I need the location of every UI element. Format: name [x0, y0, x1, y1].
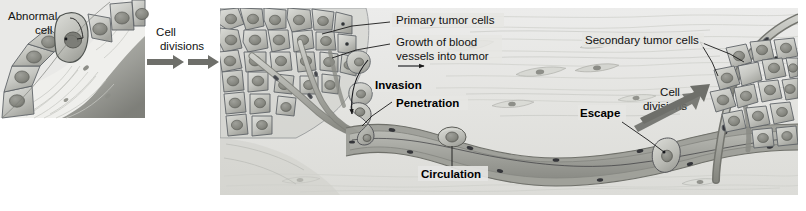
circulating-tumor-cell — [438, 127, 466, 147]
figure-canvas: Abnormal cell Cell divisions — [0, 0, 806, 211]
abnormal-cell-leader-dot — [65, 38, 68, 41]
escape-label: Escape — [580, 107, 620, 119]
metastasis-figure: Abnormal cell Cell divisions — [0, 0, 806, 211]
abnormal-cell-label-line1: Abnormal — [8, 10, 57, 22]
cell-divisions-left-label-line2: divisions — [160, 40, 204, 52]
invasion-label: Invasion — [375, 79, 422, 91]
circulation-label: Circulation — [421, 168, 481, 180]
abnormal-cell-label-line2: cell — [35, 24, 52, 36]
cell-divisions-left-label-line1: Cell — [156, 26, 176, 38]
cell-divisions-right-label-line1: Cell — [660, 86, 680, 98]
primary-tumor-cells-label: Primary tumor cells — [396, 14, 495, 26]
secondary-tumor-cells-label: Secondary tumor cells — [585, 34, 699, 46]
penetration-label: Penetration — [396, 97, 459, 109]
growth-blood-vessels-label-line1: Growth of blood — [396, 36, 477, 48]
growth-blood-vessels-label-line2: vessels into tumor — [396, 50, 489, 62]
metastasis-panel — [219, 8, 800, 195]
abnormal-cell-nucleus — [64, 32, 81, 48]
escape-leader-dot — [663, 151, 666, 154]
